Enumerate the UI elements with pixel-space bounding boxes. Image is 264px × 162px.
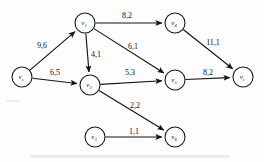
node-circle-vt [233, 67, 253, 87]
edge-label-v1-v4: 8,2 [122, 11, 132, 20]
node-v6[interactable]: v6 [165, 127, 185, 147]
edge-label-vs-v1: 9,6 [37, 41, 47, 50]
node-vt[interactable]: vt [233, 67, 253, 87]
node-circle-v1 [75, 13, 95, 33]
node-circle-vs [12, 67, 32, 87]
graph-canvas: 9,66,54,18,26,15,32,21,111,18,2 vsv1v2v3… [0, 0, 264, 162]
edge-v2-v6 [99, 90, 164, 130]
edge-label-v2-v5: 5,3 [125, 68, 135, 77]
edge-v1-v5 [94, 29, 164, 73]
edge-v5-vt [185, 78, 229, 80]
node-v2[interactable]: v2 [80, 75, 100, 95]
edges-layer [30, 23, 233, 137]
node-circle-v6 [165, 127, 185, 147]
edge-label-v5-vt: 8,2 [203, 68, 213, 77]
node-circle-v3 [85, 127, 105, 147]
node-vs[interactable]: vs [12, 67, 32, 87]
edge-vs-v2 [32, 78, 76, 83]
node-v5[interactable]: v5 [165, 70, 185, 90]
node-circle-v4 [165, 13, 185, 33]
edge-labels-layer: 9,66,54,18,26,15,32,21,111,18,2 [37, 11, 220, 136]
edge-label-v1-v5: 6,1 [128, 42, 138, 51]
node-v4[interactable]: v4 [165, 13, 185, 33]
edge-label-vs-v2: 6,5 [50, 68, 60, 77]
node-v3[interactable]: v3 [85, 127, 105, 147]
edge-v1-v2 [86, 33, 89, 71]
node-circle-v5 [165, 70, 185, 90]
edge-label-v2-v6: 2,2 [130, 101, 140, 110]
edge-label-v3-v6: 1,1 [129, 127, 139, 136]
paper-smudges [6, 100, 230, 158]
edge-label-v4-vt: 11,1 [206, 38, 220, 47]
network-flow-diagram: 9,66,54,18,26,15,32,21,111,18,2 vsv1v2v3… [0, 0, 264, 162]
edge-v2-v5 [100, 81, 161, 85]
edge-v4-vt [183, 30, 232, 69]
node-v1[interactable]: v1 [75, 13, 95, 33]
node-circle-v2 [80, 75, 100, 95]
edge-vs-v1 [30, 32, 75, 71]
edge-label-v1-v2: 4,1 [91, 50, 101, 59]
